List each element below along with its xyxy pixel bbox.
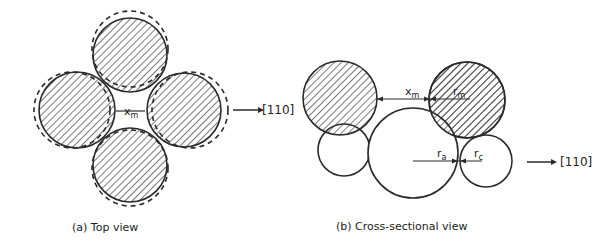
panel-a-top-view — [34, 11, 228, 206]
caption-a: (a) Top view — [72, 221, 138, 234]
hatched-circle-right-b-top — [429, 62, 505, 138]
direction-arrow-b — [527, 159, 557, 165]
direction-arrow-a — [233, 107, 264, 113]
xm-label-a: xm — [124, 105, 139, 120]
direction-label-b: [110] — [560, 155, 592, 169]
hatched-circle-bottom — [93, 128, 167, 202]
direction-label-a: [110] — [262, 103, 294, 117]
panel-b-cross-section — [303, 61, 512, 198]
diagram-canvas: xm [110] (a) Top view xm rm ra rc [110] … — [0, 0, 610, 246]
caption-b: (b) Cross-sectional view — [336, 220, 467, 233]
hatched-circle-top — [93, 18, 167, 92]
hatched-circle-left-b — [303, 61, 377, 135]
hatched-circle-right — [147, 73, 221, 147]
hatched-circle-left — [39, 72, 115, 148]
xm-label-b: xm — [405, 85, 420, 100]
